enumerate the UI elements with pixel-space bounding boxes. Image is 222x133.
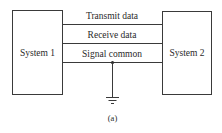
figure-caption: (a) xyxy=(108,113,118,123)
system-1-block: System 1 xyxy=(13,11,63,95)
ground-icon xyxy=(106,98,119,104)
signal-common-line: Signal common xyxy=(63,49,163,63)
system-2-block: System 2 xyxy=(163,12,212,95)
signal-common-label: Signal common xyxy=(82,49,142,59)
interface-diagram: System 1 System 2 Transmit data Receive … xyxy=(0,0,222,133)
ground-connection xyxy=(106,61,119,104)
transmit-data-line: Transmit data xyxy=(63,11,163,25)
system-1-label: System 1 xyxy=(20,48,55,58)
receive-data-label: Receive data xyxy=(88,30,138,40)
system-2-label: System 2 xyxy=(169,48,204,58)
receive-data-line: Receive data xyxy=(63,30,163,44)
transmit-data-label: Transmit data xyxy=(86,11,139,21)
